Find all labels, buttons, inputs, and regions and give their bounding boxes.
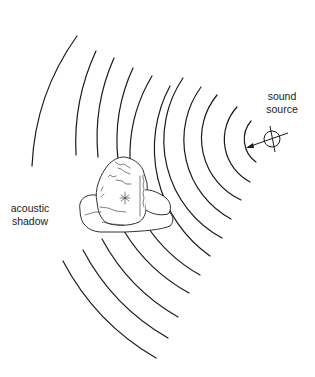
wavefront-1 xyxy=(244,121,256,162)
acoustic-shadow-diagram: sound source acoustic shadow xyxy=(0,0,315,377)
sound-source-label-line1: sound xyxy=(268,90,297,102)
acoustic-shadow-label-line2: shadow xyxy=(12,215,49,227)
wavefront-5 xyxy=(164,78,222,238)
wavefront-10-bottom xyxy=(83,250,168,338)
wavefront-6 xyxy=(154,86,210,256)
wavefront-4 xyxy=(184,87,231,219)
sound-source xyxy=(246,126,288,152)
wavefront-11-top xyxy=(32,36,77,166)
wavefront-9-top xyxy=(97,58,114,157)
wavefront-2 xyxy=(224,107,250,182)
sound-source-cross-h xyxy=(248,133,288,147)
wavefront-10-top xyxy=(76,51,96,155)
wavefront-3 xyxy=(201,95,241,200)
sound-source-label-line2: source xyxy=(266,103,298,115)
rock-boulder xyxy=(96,157,147,225)
direction-arrow-icon xyxy=(246,143,254,148)
rock-side-slab xyxy=(145,190,170,215)
wavefront-11-bottom xyxy=(63,261,156,358)
wavefront-8-bottom xyxy=(124,231,189,293)
acoustic-shadow-label-line1: acoustic xyxy=(11,202,50,214)
rock-obstacle xyxy=(80,157,173,232)
